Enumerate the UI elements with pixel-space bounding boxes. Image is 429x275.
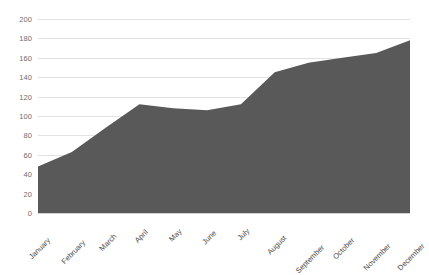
x-axis-tick-text: December — [396, 241, 427, 272]
x-axis-tick-text: March — [97, 232, 118, 253]
x-axis-tick-text: June — [200, 229, 218, 247]
x-axis-tick-text: February — [59, 238, 87, 266]
area-fill-path — [38, 40, 410, 213]
y-axis-tick-label: 120 — [19, 92, 32, 101]
y-axis-tick-label: 60 — [23, 150, 32, 159]
y-axis-tick-label: 40 — [23, 170, 32, 179]
x-axis-tick-label: April — [144, 217, 161, 234]
y-axis-tick-label: 200 — [19, 15, 32, 24]
y-axis-tick-label: 100 — [19, 112, 32, 121]
x-axis-tick-label: August — [282, 217, 305, 240]
x-axis-tick-text: August — [265, 234, 288, 257]
y-axis-tick-label: 140 — [19, 73, 32, 82]
x-axis: JanuaryFebruaryMarchAprilMayJuneJulyAugu… — [38, 213, 410, 267]
x-axis-tick-label: November — [386, 217, 417, 248]
x-axis-tick-label: October — [350, 217, 375, 242]
x-axis-tick-text: January — [27, 236, 52, 261]
y-axis: 020406080100120140160180200 — [0, 0, 38, 267]
x-axis-tick-label: July — [245, 217, 261, 233]
x-axis-tick-label: January — [46, 217, 71, 242]
y-axis-tick-label: 20 — [23, 189, 32, 198]
x-axis-tick-text: November — [362, 241, 393, 272]
x-axis-tick-text: May — [167, 227, 183, 243]
y-axis-tick-label: 160 — [19, 53, 32, 62]
x-axis-tick-label: March — [112, 217, 133, 238]
x-axis-tick-text: September — [293, 243, 325, 275]
x-axis-tick-label: December — [420, 217, 429, 248]
x-axis-tick-label: June — [212, 217, 230, 235]
x-axis-tick-text: April — [133, 228, 150, 245]
y-axis-tick-label: 0 — [28, 209, 32, 218]
y-axis-tick-label: 180 — [19, 34, 32, 43]
y-axis-tick-label: 80 — [23, 131, 32, 140]
area-series — [38, 19, 410, 213]
x-axis-tick-label: May — [177, 217, 193, 233]
x-axis-tick-text: July — [235, 226, 251, 242]
plot-area — [38, 19, 410, 213]
